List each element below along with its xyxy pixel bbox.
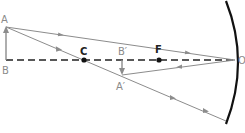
focal-point <box>156 57 161 62</box>
label-o: O <box>238 55 245 66</box>
ray-arrow-icon <box>185 51 191 55</box>
label-b: B <box>2 65 9 76</box>
concave-mirror <box>226 1 238 124</box>
ray-arrow-icon <box>203 108 209 113</box>
center-of-curvature-point <box>81 57 86 62</box>
ray-diagram: A B C B′ A′ F O <box>0 0 245 133</box>
label-f: F <box>155 44 162 55</box>
label-b-prime: B′ <box>118 46 128 57</box>
ray-through-center <box>6 27 226 121</box>
label-a: A <box>1 14 8 25</box>
image-arrowhead-icon <box>119 68 125 75</box>
label-c: C <box>80 46 87 57</box>
label-a-prime: A′ <box>116 81 126 92</box>
